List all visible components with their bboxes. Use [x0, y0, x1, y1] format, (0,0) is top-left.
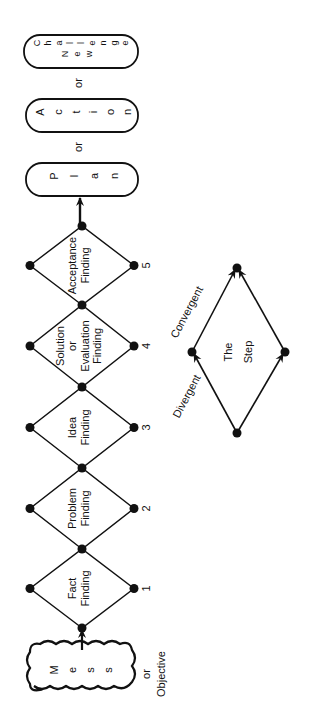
new-letter: N — [60, 51, 70, 58]
outcome-plan: P l a n — [26, 163, 138, 196]
new-letter: e — [72, 51, 82, 56]
action-letter: n — [121, 109, 133, 115]
action-letter: t — [70, 110, 82, 113]
plan-letter: P — [48, 172, 60, 179]
challenge-letter: l — [65, 42, 75, 44]
challenge-letter: a — [54, 40, 64, 45]
or-label: or — [140, 669, 152, 679]
step-2-line: Problem — [66, 488, 78, 529]
convergent-label: Convergent — [168, 284, 205, 340]
step-4-line: or — [66, 341, 78, 351]
step-3-line: Finding — [79, 409, 91, 445]
step-4-line: Finding — [91, 328, 103, 364]
mess-letter: M — [48, 665, 60, 674]
step-3-line: Idea — [66, 416, 78, 438]
legend-title-line: The — [222, 343, 234, 362]
mess-letter: s — [102, 667, 114, 673]
or-separator: or — [72, 78, 84, 88]
challenge-letter: h — [43, 40, 53, 45]
plan-letter: n — [108, 173, 120, 179]
step-5-number: 5 — [140, 262, 152, 268]
step-5-line: Acceptance — [66, 237, 78, 294]
action-letter: c — [52, 109, 64, 115]
step-3-number: 3 — [140, 424, 152, 430]
challenge-letter: e — [120, 40, 130, 45]
step-4-line: Solution — [54, 326, 66, 366]
challenge-letter: e — [87, 40, 97, 45]
step-legend: The Step Divergent Convergent — [168, 264, 290, 438]
step-1-number: 1 — [140, 585, 152, 591]
outcome-new-challenge: N e w C h a l l e n g e — [24, 35, 138, 68]
action-letter: A — [34, 108, 46, 116]
step-4-line: Evaluation — [79, 320, 91, 371]
challenge-letter: l — [76, 42, 86, 44]
action-letter: i — [87, 111, 99, 113]
or-separator: or — [72, 142, 84, 152]
challenge-letter: g — [109, 40, 119, 45]
step-2-number: 2 — [140, 505, 152, 511]
plan-letter: a — [88, 172, 100, 179]
outcome-action: A c t i o n — [26, 99, 138, 132]
step-5-line: Finding — [79, 247, 91, 283]
challenge-letter: n — [98, 40, 108, 45]
step-2-line: Finding — [79, 490, 91, 526]
divergent-label: Divergent — [170, 373, 203, 420]
step-1-line: Finding — [79, 570, 91, 606]
mess-letter: s — [84, 667, 96, 673]
challenge-letter: C — [32, 39, 42, 46]
plan-letter: l — [68, 175, 80, 177]
legend-title-line: Step — [242, 341, 254, 364]
action-letter: o — [104, 109, 116, 115]
objective-label: Objective — [155, 651, 167, 697]
step-4-number: 4 — [140, 343, 152, 349]
step-1-line: Fact — [66, 578, 78, 599]
new-letter: w — [84, 50, 94, 58]
creative-problem-solving-diagram: M e s s or Objective Fact Finding 1 Prob… — [0, 0, 311, 714]
mess-letter: e — [66, 667, 78, 673]
